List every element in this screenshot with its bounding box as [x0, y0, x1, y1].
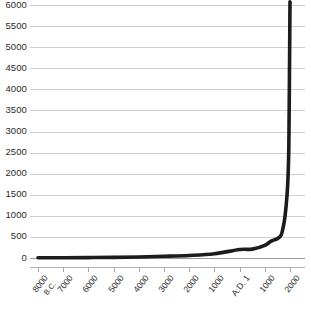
x-axis-tick-label: 5000 [106, 273, 126, 295]
y-axis-tick-label: 1500 [0, 189, 27, 199]
x-axis-tick-label: A.D. 1 [229, 273, 252, 298]
x-axis-tick [240, 267, 241, 272]
population-curve [30, 0, 305, 280]
x-axis-tick [114, 267, 115, 272]
x-axis-tick [38, 267, 39, 272]
x-axis-tick-labels: 8000B.C.7000600050004000300020001000A.D.… [30, 273, 305, 322]
y-axis-tick-label: 5000 [0, 42, 27, 52]
y-axis-tick-label: 500 [0, 231, 27, 241]
x-axis-tick [63, 267, 64, 272]
x-axis-tick [139, 267, 140, 272]
x-axis-tick-label: 1000 [257, 273, 277, 295]
x-axis-tick-label: 8000B.C. [30, 273, 58, 300]
y-axis-tick-label: 2000 [0, 168, 27, 178]
y-axis-tick-label: 0 [0, 253, 27, 263]
x-axis-tick [189, 267, 190, 272]
population-growth-chart: 6000550050004500400035003000250020001500… [0, 0, 311, 322]
x-axis-tick-label-suffix: B.C. [39, 280, 58, 301]
x-axis-tick-label: 7000 [55, 273, 75, 295]
x-axis-tick-label: 3000 [156, 273, 176, 295]
x-axis-tick-label: 2000 [181, 273, 201, 295]
y-axis-tick-label: 2500 [0, 147, 27, 157]
x-axis-tick-label: 6000 [81, 273, 101, 295]
x-axis-tick-label: 1000 [207, 273, 227, 295]
x-axis-tick [290, 267, 291, 272]
y-axis-tick-label: 6000 [0, 0, 27, 9]
x-axis-tick [265, 267, 266, 272]
y-axis-tick-label: 1000 [0, 210, 27, 220]
x-axis-tick [164, 267, 165, 272]
x-axis-tick [88, 267, 89, 272]
x-axis-tick-label: 2000 [282, 273, 302, 295]
y-axis-tick-label: 4500 [0, 63, 27, 73]
y-axis-tick-label: 4000 [0, 84, 27, 94]
y-axis-tick-label: 5500 [0, 21, 27, 31]
y-axis-tick-label: 3500 [0, 105, 27, 115]
chart-plot-area [30, 0, 305, 280]
x-axis-tick-label: 4000 [131, 273, 151, 295]
x-axis-tick [214, 267, 215, 272]
y-axis-tick-label: 3000 [0, 126, 27, 136]
y-axis-tick-labels: 6000550050004500400035003000250020001500… [0, 0, 27, 280]
